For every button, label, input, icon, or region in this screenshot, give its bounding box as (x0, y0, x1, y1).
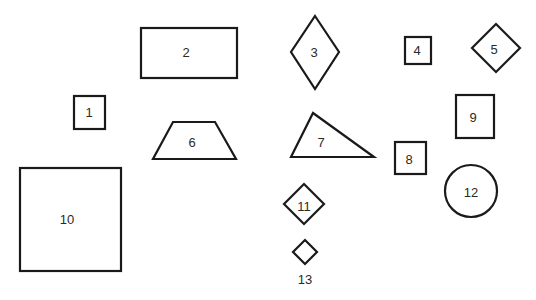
shape-6-trapezoid: 6 (153, 122, 236, 159)
shape-13-label: 13 (298, 272, 312, 287)
shape-1-label: 1 (85, 105, 92, 120)
shape-4-label: 4 (413, 43, 420, 58)
shape-3-rhombus: 3 (291, 16, 339, 89)
shape-10-square: 10 (20, 168, 121, 271)
shape-2-label: 2 (182, 45, 189, 60)
shape-2-rectangle: 2 (141, 28, 237, 78)
shape-4-square: 4 (405, 37, 431, 64)
shape-6-label: 6 (188, 135, 195, 150)
shape-12-label: 12 (464, 185, 478, 200)
shapes-diagram: 1 2 3 4 5 6 7 8 9 10 (0, 0, 536, 300)
shape-9-label: 9 (469, 110, 476, 125)
shape-13-diamond: 13 (293, 240, 317, 287)
shape-7-label: 7 (317, 135, 324, 150)
shape-11-diamond: 11 (284, 184, 324, 224)
shape-1-square: 1 (74, 96, 105, 129)
shape-8-square: 8 (395, 142, 426, 174)
shape-10-label: 10 (60, 212, 74, 227)
shape-5-diamond: 5 (472, 24, 520, 72)
shape-9-rectangle: 9 (456, 95, 494, 138)
shape-3-label: 3 (310, 45, 317, 60)
shape-5-label: 5 (490, 42, 497, 57)
shape-7-triangle: 7 (291, 113, 374, 157)
shape-11-label: 11 (297, 199, 311, 214)
shape-8-label: 8 (405, 152, 412, 167)
shape-12-circle: 12 (445, 165, 497, 217)
